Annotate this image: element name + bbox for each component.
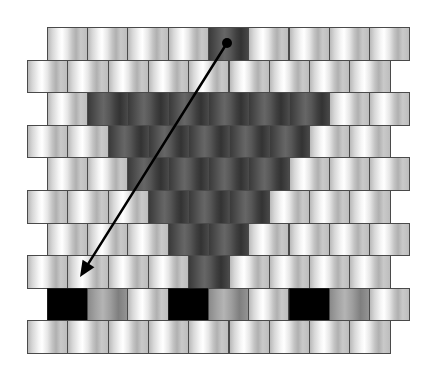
arrow-start-dot-icon [222, 38, 232, 48]
arrow-head-icon [80, 260, 94, 277]
direction-arrow-line [89, 43, 227, 263]
direction-arrow-layer [0, 0, 430, 365]
